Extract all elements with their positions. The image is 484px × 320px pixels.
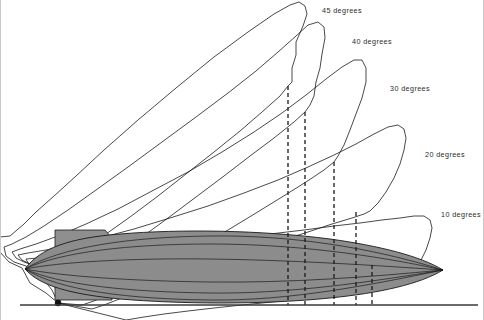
airship-swing-diagram: 45 degrees 40 degrees 30 degrees 20 degr… — [0, 0, 484, 320]
angle-label-10: 10 degrees — [441, 211, 481, 218]
airship-hull — [25, 231, 443, 303]
angle-label-45: 45 degrees — [322, 7, 362, 14]
diagram-canvas — [0, 0, 484, 320]
frame-edge-left — [0, 0, 1, 320]
angle-label-40: 40 degrees — [352, 38, 392, 45]
angle-label-30: 30 degrees — [390, 85, 430, 92]
angle-label-20: 20 degrees — [425, 151, 465, 158]
